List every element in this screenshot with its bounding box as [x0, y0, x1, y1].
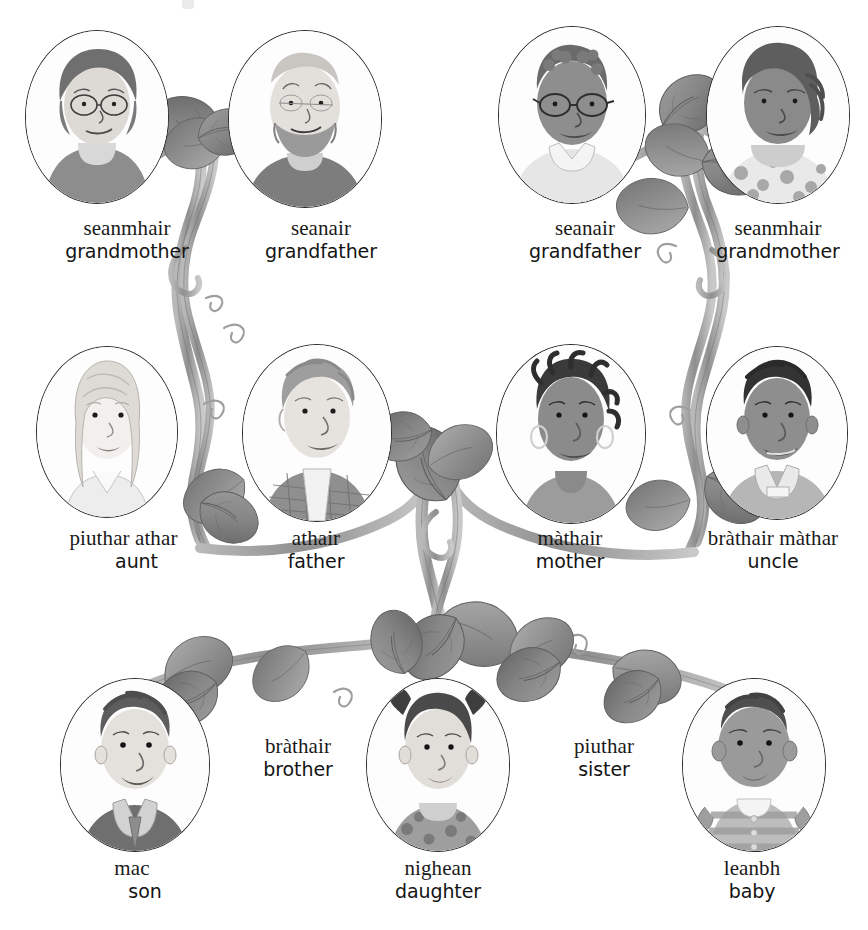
english-term: grandmother: [688, 242, 868, 261]
english-term: brother: [222, 760, 374, 779]
portrait-illustration-elderly-man-beard: [229, 31, 381, 207]
portrait-daughter[interactable]: [366, 678, 510, 852]
english-term: sister: [528, 760, 680, 779]
portrait-grandfather-paternal[interactable]: [228, 30, 382, 208]
english-term: father: [240, 552, 392, 571]
english-term: son: [56, 882, 208, 901]
english-term: grandmother: [22, 242, 232, 261]
label-father: athair father: [240, 528, 392, 572]
gaelic-term: seanmhair: [688, 218, 868, 239]
english-term: grandfather: [490, 242, 680, 261]
portrait-grandmother-maternal[interactable]: [706, 26, 850, 204]
gaelic-term: leanbh: [676, 858, 828, 879]
gaelic-term: nighean: [362, 858, 514, 879]
portrait-illustration-elderly-man-glasses: [499, 27, 645, 203]
portrait-grandfather-maternal[interactable]: [498, 26, 646, 204]
english-term: grandfather: [226, 242, 416, 261]
english-term: daughter: [362, 882, 514, 901]
portrait-illustration-elderly-woman-glasses: [26, 31, 168, 203]
label-sister: piuthar sister: [528, 736, 680, 780]
gaelic-term: bràthair: [222, 736, 374, 757]
label-grandmother-maternal: seanmhair grandmother: [688, 218, 868, 262]
gaelic-term: mac: [56, 858, 208, 879]
english-term: uncle: [678, 552, 868, 571]
label-baby: leanbh baby: [676, 858, 828, 902]
label-grandmother-paternal: seanmhair grandmother: [22, 218, 232, 262]
english-term: baby: [676, 882, 828, 901]
label-son: mac son: [56, 858, 208, 902]
portrait-illustration-man-plaid-shirt: [243, 345, 391, 521]
english-term: mother: [494, 552, 646, 571]
portrait-father[interactable]: [242, 344, 392, 522]
gaelic-term: seanair: [226, 218, 416, 239]
portrait-uncle[interactable]: [706, 346, 848, 520]
gaelic-term: piuthar athar: [16, 528, 231, 549]
gaelic-term: màthair: [494, 528, 646, 549]
family-tree-illustration: seanmhair grandmother seanair grandfathe…: [0, 0, 868, 930]
label-grandfather-paternal: seanair grandfather: [226, 218, 416, 262]
label-brother: bràthair brother: [222, 736, 374, 780]
portrait-aunt[interactable]: [36, 346, 178, 518]
cropped-title-mark: [182, 0, 194, 9]
gaelic-term: piuthar: [528, 736, 680, 757]
gaelic-term: bràthair màthar: [678, 528, 868, 549]
label-aunt: piuthar athar aunt: [16, 528, 231, 572]
label-uncle: bràthair màthar uncle: [678, 528, 868, 572]
portrait-son[interactable]: [60, 678, 210, 852]
portrait-grandmother-paternal[interactable]: [25, 30, 169, 204]
gaelic-term: athair: [240, 528, 392, 549]
portrait-illustration-girl-pigtails: [367, 679, 509, 851]
portrait-mother[interactable]: [496, 344, 646, 524]
gaelic-term: seanmhair: [22, 218, 232, 239]
gaelic-term: seanair: [490, 218, 680, 239]
label-mother: màthair mother: [494, 528, 646, 572]
portrait-illustration-young-woman-blonde: [37, 347, 177, 517]
portrait-baby[interactable]: [682, 678, 826, 852]
english-term: aunt: [16, 552, 231, 571]
label-daughter: nighean daughter: [362, 858, 514, 902]
portrait-illustration-elderly-woman-curly-hair: [707, 27, 849, 203]
label-grandfather-maternal: seanair grandfather: [490, 218, 680, 262]
portrait-illustration-baby-striped-romper: [683, 679, 825, 851]
portrait-illustration-woman-braids-earrings: [497, 345, 645, 523]
portrait-illustration-man-collared-jacket: [707, 347, 847, 519]
portrait-illustration-boy-collared-shirt: [61, 679, 209, 851]
